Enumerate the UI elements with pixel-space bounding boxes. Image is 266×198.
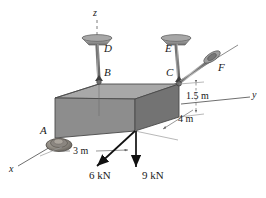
- diagram-svg: [0, 0, 266, 198]
- point-label-D: D: [104, 43, 112, 54]
- axis-label-z: z: [93, 8, 97, 18]
- force-label-6kN: 6 kN: [89, 170, 111, 181]
- dimension-label-3m: 3 m: [73, 146, 88, 156]
- support-ball-socket-A: [46, 139, 72, 152]
- figure-canvas: z y x A B C D E F 1.5 m 4 m 3 m 6 kN 9 k…: [0, 0, 266, 198]
- force-label-9kN: 9 kN: [142, 170, 164, 181]
- cable-CF: [177, 48, 223, 86]
- point-label-C: C: [166, 67, 173, 78]
- force-6kN-arrow: [97, 131, 135, 166]
- dimension-label-4m: 4 m: [178, 114, 193, 124]
- point-label-E: E: [165, 43, 172, 54]
- block-body: [55, 84, 179, 138]
- axis-label-y: y: [252, 90, 256, 100]
- dimension-label-1-5m: 1.5 m: [186, 91, 209, 101]
- point-label-F: F: [218, 62, 225, 73]
- point-label-B: B: [104, 67, 111, 78]
- axis-label-x: x: [9, 164, 13, 174]
- point-label-A: A: [40, 125, 47, 136]
